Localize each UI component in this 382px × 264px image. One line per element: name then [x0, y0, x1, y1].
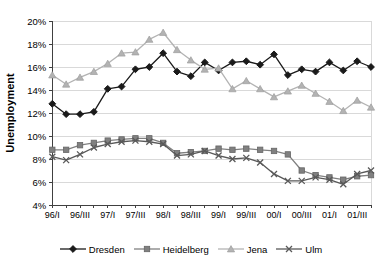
diamond-marker	[340, 67, 347, 74]
square-marker	[244, 146, 249, 151]
square-marker	[63, 147, 68, 152]
series-line	[52, 141, 371, 185]
x-marker	[257, 159, 263, 165]
y-tick-label: 16%	[27, 62, 47, 73]
triangle-marker	[229, 85, 236, 91]
x-tick-label: 99/III	[236, 210, 256, 220]
x-tick-label: 96/I	[45, 210, 60, 220]
diamond-marker	[354, 58, 361, 65]
x-tick-label: 96/III	[70, 210, 90, 220]
x-tick-label: 00/III	[292, 210, 312, 220]
triangle-marker	[76, 74, 83, 80]
square-marker	[271, 148, 276, 153]
plot-area: 4%6%8%10%12%14%16%18%20%96/I96/III97/I97…	[0, 0, 382, 264]
square-marker	[77, 143, 82, 148]
triangle-marker	[90, 68, 97, 74]
diamond-marker	[69, 246, 76, 253]
diamond-marker	[77, 111, 84, 118]
y-tick-label: 4%	[33, 200, 47, 211]
y-tick-label: 8%	[33, 154, 47, 165]
diamond-marker	[229, 59, 236, 66]
triangle-marker	[326, 98, 333, 104]
diamond-marker	[312, 68, 319, 75]
triangle-marker	[298, 82, 305, 88]
square-marker	[257, 147, 262, 152]
legend-item-heidelberg: Heidelberg	[134, 244, 209, 255]
series-ulm	[49, 138, 374, 188]
x-tick-label: 98/I	[156, 210, 171, 220]
diamond-legend-icon	[60, 244, 86, 254]
x-tick-label: 97/I	[100, 210, 115, 220]
y-tick-label: 20%	[27, 16, 47, 27]
legend-item-ulm: Ulm	[276, 244, 322, 255]
unemployment-chart: 4%6%8%10%12%14%16%18%20%96/I96/III97/I97…	[0, 0, 382, 264]
legend-label: Dresden	[89, 244, 125, 255]
triangle-marker	[257, 85, 264, 91]
series-line	[52, 53, 371, 114]
y-axis-title: Unemployment	[4, 63, 18, 163]
x-marker	[77, 151, 83, 157]
square-marker	[285, 152, 290, 157]
x-tick-label: 97/III	[125, 210, 145, 220]
legend-label: Ulm	[305, 244, 322, 255]
diamond-marker	[368, 64, 375, 71]
legend: DresdenHeidelbergJenaUlm	[0, 240, 382, 258]
legend-item-jena: Jena	[218, 244, 268, 255]
diamond-marker	[326, 59, 333, 66]
legend-label: Heidelberg	[163, 244, 209, 255]
square-marker	[299, 168, 304, 173]
triangle-marker	[270, 94, 277, 100]
x-tick-label: 01/III	[347, 210, 367, 220]
diamond-marker	[243, 58, 250, 65]
diamond-marker	[90, 108, 97, 115]
y-tick-label: 12%	[27, 108, 47, 119]
series-dresden	[49, 50, 375, 118]
diamond-marker	[284, 72, 291, 79]
y-tick-label: 18%	[27, 39, 47, 50]
triangle-marker	[160, 29, 167, 35]
square-marker	[50, 147, 55, 152]
triangle-marker	[243, 77, 250, 83]
x-legend-icon	[276, 244, 302, 254]
x-tick-label: 98/III	[181, 210, 201, 220]
square-legend-icon	[134, 244, 160, 254]
triangle-marker	[354, 97, 361, 103]
legend-item-dresden: Dresden	[60, 244, 125, 255]
x-tick-label: 00/I	[266, 210, 281, 220]
square-marker	[230, 147, 235, 152]
x-tick-label: 01/I	[322, 210, 337, 220]
triangle-marker	[63, 81, 70, 87]
y-tick-label: 6%	[33, 177, 47, 188]
triangle-marker	[49, 72, 56, 78]
legend-label: Jena	[247, 244, 268, 255]
x-marker	[271, 171, 277, 177]
x-tick-label: 99/I	[211, 210, 226, 220]
diamond-marker	[104, 85, 111, 92]
triangle-marker	[284, 88, 291, 94]
series-jena	[49, 29, 375, 114]
square-marker	[216, 146, 221, 151]
square-marker	[144, 246, 149, 251]
triangle-marker	[146, 36, 153, 42]
y-tick-label: 14%	[27, 85, 47, 96]
triangle-legend-icon	[218, 244, 244, 254]
triangle-marker	[367, 104, 374, 110]
y-tick-label: 10%	[27, 131, 47, 142]
triangle-marker	[312, 90, 319, 96]
